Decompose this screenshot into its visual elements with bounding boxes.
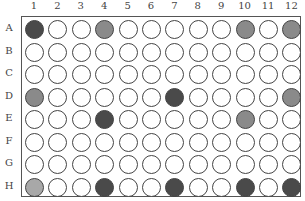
column-label: 11 [258, 0, 278, 11]
well-D1 [25, 88, 44, 107]
well-D7 [165, 88, 184, 107]
well-G10 [236, 155, 255, 174]
well-E9 [212, 110, 231, 129]
well-C12 [282, 65, 301, 84]
well-G3 [72, 155, 91, 174]
well-G2 [48, 155, 67, 174]
column-label: 4 [94, 0, 114, 11]
well-A6 [142, 20, 161, 39]
well-C8 [189, 65, 208, 84]
column-label: 10 [235, 0, 255, 11]
well-D10 [236, 88, 255, 107]
column-label: 6 [141, 0, 161, 11]
well-E2 [48, 110, 67, 129]
well-H7 [165, 178, 184, 197]
row-label: G [4, 157, 14, 168]
well-G9 [212, 155, 231, 174]
well-C6 [142, 65, 161, 84]
well-B8 [189, 43, 208, 62]
well-H12 [282, 178, 301, 197]
well-A9 [212, 20, 231, 39]
row-label: B [4, 45, 14, 56]
well-plate [21, 16, 301, 197]
well-A3 [72, 20, 91, 39]
well-B2 [48, 43, 67, 62]
well-B7 [165, 43, 184, 62]
well-D5 [119, 88, 138, 107]
well-F12 [282, 133, 301, 152]
row-label: H [4, 180, 14, 191]
well-E4 [95, 110, 114, 129]
column-label: 9 [211, 0, 231, 11]
well-C11 [259, 65, 278, 84]
well-E8 [189, 110, 208, 129]
column-label: 3 [71, 0, 91, 11]
well-H10 [236, 178, 255, 197]
well-D8 [189, 88, 208, 107]
well-B5 [119, 43, 138, 62]
well-G11 [259, 155, 278, 174]
well-D12 [282, 88, 301, 107]
well-A11 [259, 20, 278, 39]
well-B1 [25, 43, 44, 62]
well-F5 [119, 133, 138, 152]
well-H4 [95, 178, 114, 197]
row-label: C [4, 67, 14, 78]
row-label: D [4, 90, 14, 101]
well-E7 [165, 110, 184, 129]
column-label: 1 [24, 0, 44, 11]
well-D11 [259, 88, 278, 107]
well-A7 [165, 20, 184, 39]
well-F4 [95, 133, 114, 152]
well-E5 [119, 110, 138, 129]
well-F8 [189, 133, 208, 152]
well-H8 [189, 178, 208, 197]
well-F9 [212, 133, 231, 152]
well-B6 [142, 43, 161, 62]
well-C3 [72, 65, 91, 84]
well-F10 [236, 133, 255, 152]
well-C7 [165, 65, 184, 84]
well-A2 [48, 20, 67, 39]
well-E3 [72, 110, 91, 129]
column-label: 7 [164, 0, 184, 11]
well-G8 [189, 155, 208, 174]
row-label: E [4, 112, 14, 123]
column-label: 2 [47, 0, 67, 11]
well-C2 [48, 65, 67, 84]
well-C1 [25, 65, 44, 84]
well-G12 [282, 155, 301, 174]
well-H9 [212, 178, 231, 197]
well-C10 [236, 65, 255, 84]
well-E6 [142, 110, 161, 129]
column-label: 12 [281, 0, 301, 11]
well-F2 [48, 133, 67, 152]
well-E1 [25, 110, 44, 129]
well-A5 [119, 20, 138, 39]
well-B11 [259, 43, 278, 62]
well-H5 [119, 178, 138, 197]
well-G7 [165, 155, 184, 174]
well-C5 [119, 65, 138, 84]
well-B12 [282, 43, 301, 62]
well-H11 [259, 178, 278, 197]
well-H1 [25, 178, 44, 197]
well-G4 [95, 155, 114, 174]
well-C4 [95, 65, 114, 84]
row-label: A [4, 22, 14, 33]
column-label: 8 [188, 0, 208, 11]
row-label: F [4, 135, 14, 146]
well-G5 [119, 155, 138, 174]
well-A1 [25, 20, 44, 39]
well-A10 [236, 20, 255, 39]
well-B10 [236, 43, 255, 62]
well-D2 [48, 88, 67, 107]
well-E12 [282, 110, 301, 129]
well-F1 [25, 133, 44, 152]
well-E10 [236, 110, 255, 129]
well-C9 [212, 65, 231, 84]
well-A4 [95, 20, 114, 39]
well-H2 [48, 178, 67, 197]
well-E11 [259, 110, 278, 129]
well-D6 [142, 88, 161, 107]
